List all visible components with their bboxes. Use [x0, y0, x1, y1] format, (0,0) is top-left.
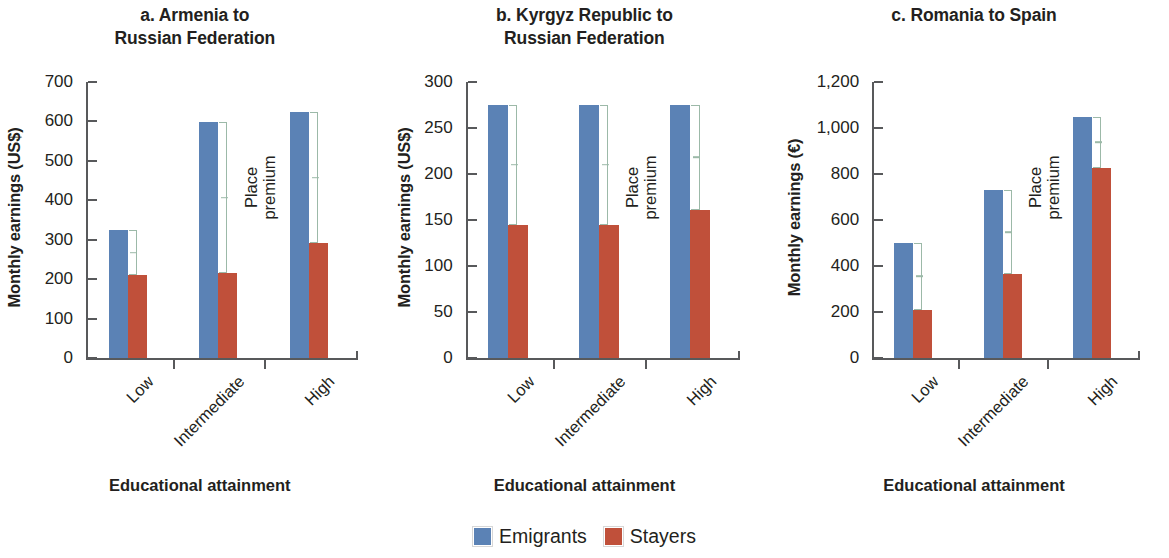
y-tick-a-5 — [88, 160, 97, 162]
x-tick-label-c-2: High — [1084, 372, 1121, 409]
bar-emigrants-b-0 — [488, 105, 508, 358]
y-axis-title-a-text: Monthly earnings (US$) — [6, 128, 25, 308]
y-tick-label-b-3: 150 — [424, 210, 452, 230]
y-axis-line-c — [872, 82, 874, 360]
bar-stayers-a-1 — [218, 273, 237, 358]
y-tick-c-5 — [874, 127, 883, 129]
place-premium-line1-a: Place — [242, 156, 260, 220]
place-premium-line1-b: Place — [622, 156, 640, 220]
y-tick-label-c-6: 1,200 — [817, 72, 860, 92]
panel-title-c: c. Romania to Spain — [779, 4, 1169, 27]
x-tick-label-b-2: High — [683, 372, 720, 409]
x-tick-b-2 — [645, 360, 647, 369]
y-tick-c-6 — [874, 81, 883, 83]
x-axis-line-b — [466, 358, 740, 360]
y-axis-title-c-text: Monthly earnings (€) — [785, 139, 804, 296]
y-tick-a-2 — [88, 278, 97, 280]
y-tick-label-c-3: 600 — [831, 210, 859, 230]
place-premium-bracket-a-0 — [129, 230, 137, 275]
bar-stayers-c-0 — [913, 310, 932, 358]
legend: Emigrants Stayers — [0, 520, 1169, 552]
y-axis-title-b-text: Monthly earnings (US$) — [395, 128, 414, 308]
y-tick-label-c-5: 1,000 — [817, 118, 860, 138]
x-tick-a-2 — [264, 360, 266, 369]
y-axis-line-b — [466, 82, 468, 360]
x-axis-title-a: Educational attainment — [10, 476, 390, 495]
place-premium-line2-c: premium — [1044, 156, 1062, 220]
place-premium-line2-b: premium — [641, 156, 659, 220]
x-tick-label-b-1: Intermediate — [551, 372, 629, 450]
x-tick-a-1 — [173, 360, 175, 369]
bar-stayers-b-1 — [599, 225, 619, 358]
bar-emigrants-a-0 — [109, 230, 128, 358]
y-tick-b-6 — [468, 81, 477, 83]
y-tick-c-2 — [874, 265, 883, 267]
y-tick-a-6 — [88, 120, 97, 122]
bar-stayers-b-0 — [508, 225, 528, 358]
x-axis-line-c — [872, 358, 1140, 360]
place-premium-bracket-c-2 — [1093, 117, 1101, 169]
panel-armenia: a. Armenia to Russian Federation Monthly… — [0, 0, 390, 515]
place-premium-bracket-a-1 — [219, 122, 227, 273]
panel-title-b: b. Kyrgyz Republic to Russian Federation — [390, 4, 780, 50]
panel-title-a-line1: a. Armenia to — [0, 4, 390, 27]
legend-item-emigrants: Emigrants — [473, 525, 587, 548]
y-tick-b-5 — [468, 127, 477, 129]
place-premium-label-a: Placepremium — [240, 115, 280, 260]
legend-label-stayers: Stayers — [630, 525, 696, 548]
bar-stayers-c-1 — [1003, 274, 1022, 358]
place-premium-line1-c: Place — [1026, 156, 1044, 220]
bar-emigrants-b-1 — [579, 105, 599, 358]
x-axis-title-b: Educational attainment — [390, 476, 780, 495]
x-tick-label-c-1: Intermediate — [954, 372, 1032, 450]
y-tick-label-a-3: 300 — [45, 230, 73, 250]
panel-title-a: a. Armenia to Russian Federation — [0, 4, 390, 50]
place-premium-bracket-b-1 — [600, 105, 608, 225]
plot-area-b: 050100150200250300LowIntermediateHighPla… — [466, 82, 740, 360]
y-tick-a-1 — [88, 318, 97, 320]
place-premium-text-b: Placepremium — [622, 156, 659, 220]
y-axis-title-b: Monthly earnings (US$) — [392, 75, 418, 360]
bar-emigrants-b-2 — [670, 105, 690, 358]
x-axis-title-c: Educational attainment — [779, 476, 1169, 495]
y-tick-label-a-5: 500 — [45, 151, 73, 171]
y-tick-label-c-1: 200 — [831, 302, 859, 322]
x-tick-c-1 — [958, 360, 960, 369]
y-tick-label-c-2: 400 — [831, 256, 859, 276]
y-axis-title-c: Monthly earnings (€) — [781, 75, 807, 360]
place-premium-bracket-a-2 — [310, 112, 318, 243]
x-tick-label-a-1: Intermediate — [170, 372, 248, 450]
place-premium-text-c: Placepremium — [1026, 156, 1063, 220]
panel-title-c-line1: c. Romania to Spain — [779, 4, 1169, 27]
y-axis-title-a: Monthly earnings (US$) — [2, 75, 28, 360]
panel-title-a-line2: Russian Federation — [0, 27, 390, 50]
bar-stayers-b-2 — [690, 210, 710, 358]
panel-title-b-line2: Russian Federation — [390, 27, 780, 50]
place-premium-bracket-c-0 — [914, 243, 922, 310]
bar-emigrants-c-2 — [1073, 117, 1092, 359]
y-tick-label-b-0: 0 — [443, 348, 452, 368]
y-tick-label-b-1: 50 — [434, 302, 453, 322]
y-tick-label-b-5: 250 — [424, 118, 452, 138]
x-tick-label-a-2: High — [301, 372, 338, 409]
panel-romania: c. Romania to Spain Monthly earnings (€)… — [779, 0, 1169, 515]
legend-swatch-emigrants — [473, 527, 492, 546]
legend-swatch-stayers — [604, 527, 623, 546]
y-tick-label-a-0: 0 — [64, 348, 73, 368]
plot-area-a: 0100200300400500600700LowIntermediateHig… — [86, 82, 358, 360]
bar-stayers-a-0 — [128, 275, 147, 358]
migration-earnings-figure: a. Armenia to Russian Federation Monthly… — [0, 0, 1169, 558]
place-premium-bracket-b-2 — [691, 105, 699, 210]
legend-label-emigrants: Emigrants — [499, 525, 587, 548]
y-tick-label-b-6: 300 — [424, 72, 452, 92]
y-tick-label-a-4: 400 — [45, 190, 73, 210]
x-tick-c-2 — [1047, 360, 1049, 369]
x-tick-label-b-0: Low — [503, 372, 538, 407]
y-tick-c-4 — [874, 173, 883, 175]
panel-title-b-line1: b. Kyrgyz Republic to — [390, 4, 780, 27]
y-tick-label-a-7: 700 — [45, 72, 73, 92]
y-tick-b-2 — [468, 265, 477, 267]
bar-stayers-a-2 — [309, 243, 328, 358]
x-axis-line-a — [86, 358, 358, 360]
place-premium-label-b: Placepremium — [621, 115, 661, 260]
